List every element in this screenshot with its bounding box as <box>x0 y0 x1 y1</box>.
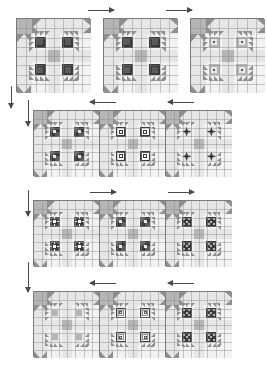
quilt-block-4-2 <box>99 291 165 357</box>
quilt-row-4 <box>0 0 267 376</box>
side-direction-marker-3 <box>25 190 32 216</box>
side-direction-marker-4 <box>25 262 32 292</box>
side-direction-marker-2 <box>25 100 32 126</box>
quilt-block-4-1 <box>33 291 99 357</box>
quilt-layout-diagram <box>0 0 267 376</box>
quilt-block-4-3 <box>165 291 231 357</box>
side-direction-marker-1 <box>8 86 15 108</box>
assembly-arrow-left-4-2 <box>168 280 194 287</box>
assembly-arrow-left-4-1 <box>90 280 116 287</box>
